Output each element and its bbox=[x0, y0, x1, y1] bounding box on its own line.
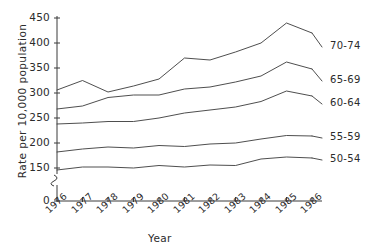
series-line-60-64 bbox=[57, 91, 312, 124]
chart-series-group bbox=[57, 23, 322, 170]
legend-leader-50-54 bbox=[312, 158, 322, 160]
legend-leader-55-59 bbox=[312, 136, 322, 138]
legend-leader-70-74 bbox=[312, 33, 322, 47]
legend-leader-60-64 bbox=[312, 96, 322, 104]
series-line-55-59 bbox=[57, 136, 312, 153]
chart-canvas bbox=[0, 0, 378, 251]
chart-axes bbox=[51, 16, 322, 202]
line-chart: Rate per 10,000 population 1502002503003… bbox=[0, 0, 378, 251]
legend-leader-65-69 bbox=[312, 69, 322, 81]
axis-break-squiggle bbox=[51, 175, 57, 186]
series-line-70-74 bbox=[57, 23, 312, 92]
series-line-50-54 bbox=[57, 157, 312, 170]
series-line-65-69 bbox=[57, 62, 312, 109]
